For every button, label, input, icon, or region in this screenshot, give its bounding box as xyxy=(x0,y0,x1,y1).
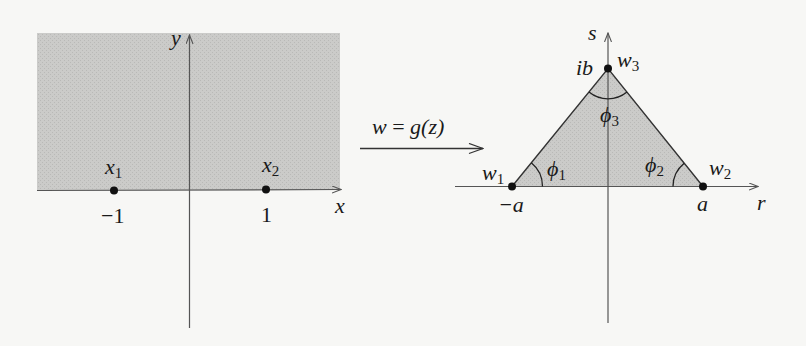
vertex-w1-label: w1 xyxy=(482,160,504,187)
z-plane-panel: x y x1 −1 x2 1 xyxy=(37,25,345,328)
r-axis-label: r xyxy=(757,190,766,215)
vertex-w3-label: w3 xyxy=(617,47,639,74)
point-x2 xyxy=(262,186,270,194)
point-x2-value: 1 xyxy=(261,202,272,227)
vertex-w2-value: a xyxy=(697,191,708,216)
upper-half-plane-region xyxy=(37,33,340,190)
y-axis-label: y xyxy=(169,25,181,50)
mapping-arrow-group: w = g(z) xyxy=(360,114,483,149)
vertex-w2-label: w2 xyxy=(709,155,731,182)
vertex-w1-value: −a xyxy=(498,192,524,217)
x-axis-label: x xyxy=(334,193,345,218)
conformal-map-diagram: x y x1 −1 x2 1 w = g(z) r s xyxy=(0,0,806,346)
w-plane-panel: r s w1 −a ϕ1 w2 a ϕ2 w3 ib ϕ3 xyxy=(455,20,766,323)
s-axis-label: s xyxy=(588,20,597,45)
mapping-label: w = g(z) xyxy=(372,114,444,139)
vertex-w3 xyxy=(604,65,612,73)
vertex-w3-value: ib xyxy=(576,55,593,80)
vertex-w2 xyxy=(699,183,707,191)
point-x1 xyxy=(110,187,118,195)
point-x1-value: −1 xyxy=(101,203,124,228)
vertex-w1 xyxy=(508,183,516,191)
